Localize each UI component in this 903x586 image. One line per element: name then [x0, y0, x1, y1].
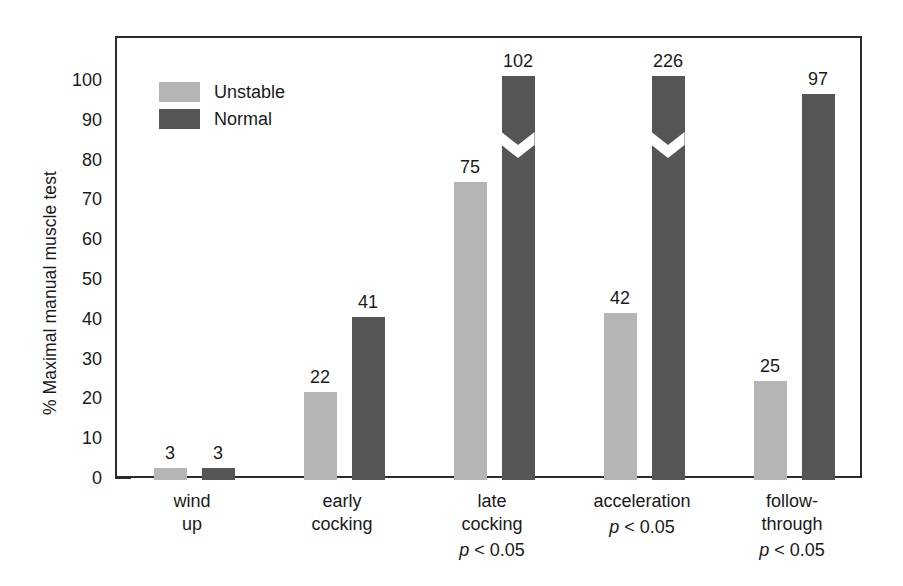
y-tick-label-50: 50: [56, 270, 102, 288]
chart-figure: % Maximal manual muscle test 01020304050…: [0, 0, 903, 586]
bar-unstable-0: [154, 468, 187, 480]
x-category-pvalue: p < 0.05: [407, 539, 577, 562]
x-category-label-3: accelerationp < 0.05: [557, 490, 727, 539]
legend-item-normal: Normal: [159, 105, 285, 132]
x-category-name: late cocking: [407, 490, 577, 536]
y-tick-label-70: 70: [56, 190, 102, 208]
y-tick-label-60: 60: [56, 230, 102, 248]
bar-unstable-4: [754, 381, 787, 481]
legend-swatch-unstable: [159, 82, 200, 102]
axis-break-chevron-upper: [652, 132, 685, 145]
bar-normal-1: [352, 317, 385, 480]
bar-value-label-normal-2: 102: [490, 52, 547, 70]
bar-normal-4: [802, 94, 835, 480]
bar-normal-0: [202, 468, 235, 480]
bar-value-label-unstable-4: 25: [742, 357, 799, 375]
legend-label-unstable: Unstable: [214, 83, 285, 101]
bar-unstable-2: [454, 182, 487, 481]
axis-break-chevron-upper: [502, 132, 535, 145]
legend-swatch-normal: [159, 109, 200, 129]
x-category-label-1: early cocking: [257, 490, 427, 536]
x-category-name: wind up: [107, 490, 277, 536]
axis-break-chevron-lower: [502, 145, 535, 158]
legend-item-unstable: Unstable: [159, 78, 285, 105]
y-tick-label-90: 90: [56, 111, 102, 129]
bar-value-label-unstable-2: 75: [442, 158, 499, 176]
x-category-pvalue: p < 0.05: [557, 516, 727, 539]
y-tick-label-80: 80: [56, 151, 102, 169]
bar-value-label-unstable-3: 42: [592, 289, 649, 307]
legend: Unstable Normal: [159, 78, 285, 132]
x-category-label-2: late cockingp < 0.05: [407, 490, 577, 562]
x-category-name: follow- through: [707, 490, 877, 536]
bar-normal-2: [502, 76, 535, 480]
x-category-pvalue: p < 0.05: [707, 539, 877, 562]
y-tick-label-10: 10: [56, 429, 102, 447]
bar-unstable-1: [304, 392, 337, 480]
y-tick-label-30: 30: [56, 350, 102, 368]
bar-value-label-unstable-1: 22: [292, 368, 349, 386]
bar-value-label-normal-1: 41: [340, 293, 397, 311]
bar-value-label-normal-4: 97: [790, 70, 847, 88]
y-tick-label-20: 20: [56, 389, 102, 407]
y-tick-label-40: 40: [56, 310, 102, 328]
legend-label-normal: Normal: [214, 110, 272, 128]
bar-normal-3: [652, 76, 685, 480]
bar-value-label-normal-3: 226: [640, 52, 697, 70]
plot-area: 33224175102422262597 Unstable Normal: [115, 36, 862, 478]
x-category-label-0: wind up: [107, 490, 277, 536]
x-category-name: early cocking: [257, 490, 427, 536]
bar-value-label-normal-0: 3: [190, 444, 247, 462]
x-category-label-4: follow- throughp < 0.05: [707, 490, 877, 562]
axis-break-chevron-lower: [652, 145, 685, 158]
y-tick-label-0: 0: [56, 469, 102, 487]
x-category-name: acceleration: [557, 490, 727, 513]
y-tick-label-100: 100: [56, 71, 102, 89]
bar-unstable-3: [604, 313, 637, 480]
